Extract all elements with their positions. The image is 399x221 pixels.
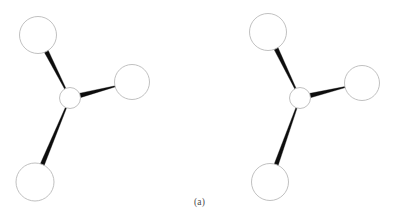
molecule-right-bottom-atom <box>252 164 289 201</box>
atoms-layer <box>16 14 380 202</box>
molecule-left-bond-center-to-right <box>78 86 117 99</box>
molecule-right-bond-center-to-right <box>308 86 347 98</box>
molecule-right-right-atom <box>345 66 380 101</box>
figure-container: (a) <box>0 0 399 221</box>
molecule-left-atoms <box>16 17 150 202</box>
molecule-left-bond-center-to-top-left <box>44 49 67 91</box>
molecule-diagram-canvas <box>0 0 399 221</box>
molecule-left-bond-center-to-bottom-left <box>40 106 68 167</box>
molecule-right-bond-center-to-bottom <box>274 106 298 167</box>
molecule-left-right-atom <box>115 65 150 100</box>
molecule-left-bonds <box>40 49 117 166</box>
molecule-left-center-atom <box>60 88 81 109</box>
molecule-right-top-atom <box>250 14 287 51</box>
molecule-right-atoms <box>250 14 380 201</box>
molecule-right-center-atom <box>290 88 311 109</box>
figure-caption: (a) <box>0 196 399 208</box>
molecule-right-bond-center-to-top <box>273 46 296 90</box>
molecule-left-top-left-atom <box>20 17 57 54</box>
molecule-right-bonds <box>273 46 346 166</box>
